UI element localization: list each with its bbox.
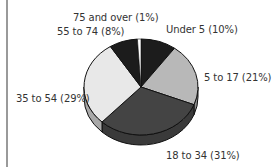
label-18-to-34: 18 to 34 (31%) bbox=[166, 150, 240, 161]
label-5-to-17: 5 to 17 (21%) bbox=[204, 72, 271, 83]
pie-top bbox=[84, 39, 198, 135]
label-75-and-over: 75 and over (1%) bbox=[73, 12, 158, 23]
label-55-to-74: 55 to 74 (8%) bbox=[57, 26, 124, 37]
label-under-5: Under 5 (10%) bbox=[166, 24, 238, 35]
label-35-to-54: 35 to 54 (29%) bbox=[16, 93, 90, 104]
